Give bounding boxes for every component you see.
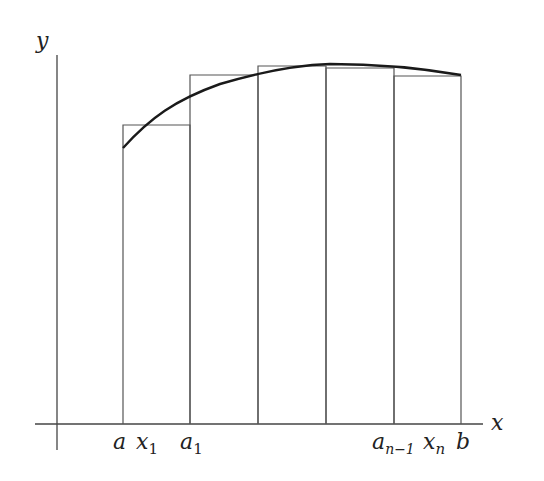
- rectangle-5: [394, 76, 461, 424]
- tick-labels: a x1 a1 an−1 xn b: [113, 429, 470, 458]
- riemann-sum-diagram: y x a x1 a1 an−1 xn b: [0, 0, 544, 481]
- tick-label-a1: a1: [180, 429, 203, 458]
- tick-label-xn: xn: [423, 429, 445, 458]
- tick-label-b: b: [456, 429, 470, 454]
- rectangle-1: [123, 125, 190, 424]
- y-axis-label: y: [35, 28, 49, 53]
- x-axis-label: x: [491, 410, 504, 435]
- rectangles: [123, 66, 461, 424]
- tick-label-x1: x1: [136, 429, 158, 458]
- rectangle-2: [190, 75, 258, 424]
- rectangle-4: [326, 68, 394, 424]
- tick-label-a-n-minus-1: an−1: [372, 429, 415, 457]
- tick-label-a: a: [113, 429, 126, 454]
- rectangle-3: [258, 66, 326, 424]
